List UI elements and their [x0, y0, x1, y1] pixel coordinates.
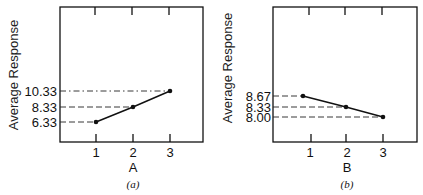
- panel-b: 8.67 8.33 8.00 1 2 3 B (b) Average Respo…: [220, 7, 417, 191]
- data-point: [344, 105, 349, 110]
- x-tick-label: 3: [379, 145, 386, 160]
- bottom-ticks-a: [96, 134, 170, 142]
- plot-frame-b: [273, 7, 417, 142]
- y-tick-label: 10.33: [24, 84, 57, 99]
- x-tick-label: 1: [92, 145, 99, 160]
- bottom-ticks-b: [311, 134, 383, 142]
- data-point: [381, 115, 386, 120]
- x-tick-label: 1: [306, 145, 313, 160]
- top-ticks-b: [309, 7, 382, 15]
- data-line-b: [303, 96, 383, 117]
- data-point: [168, 89, 173, 94]
- data-point: [94, 120, 99, 125]
- y-axis-label: Average Response: [220, 13, 235, 123]
- data-point: [301, 94, 306, 99]
- x-axis-label: A: [129, 160, 138, 175]
- panel-caption: (b): [341, 178, 354, 191]
- reference-lines-b: [273, 96, 383, 117]
- panel-caption: (a): [127, 178, 140, 191]
- x-tick-label: 3: [166, 145, 173, 160]
- x-tick-label: 2: [129, 145, 136, 160]
- reference-lines-a: [60, 91, 170, 122]
- y-axis-label: Average Response: [6, 20, 21, 130]
- y-tick-label: 8.33: [32, 100, 57, 115]
- top-ticks-a: [95, 7, 169, 15]
- panel-a: 10.33 8.33 6.33 1 2 3 A (a) Average Resp…: [6, 7, 203, 191]
- x-tick-label: 2: [343, 145, 350, 160]
- y-tick-label: 8.00: [246, 110, 271, 125]
- y-tick-label: 6.33: [32, 115, 57, 130]
- figure: 10.33 8.33 6.33 1 2 3 A (a) Average Resp…: [0, 0, 423, 195]
- data-point: [131, 105, 136, 110]
- x-axis-label: B: [343, 160, 352, 175]
